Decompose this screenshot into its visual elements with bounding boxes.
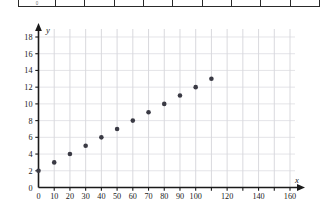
table-cell: [144, 0, 173, 7]
table-cell: [291, 0, 320, 7]
x-axis-tick-label: 30: [82, 192, 90, 201]
y-axis-tick-label: 10: [24, 100, 32, 109]
table-cell: [261, 0, 290, 7]
data-point: [68, 152, 73, 157]
x-axis-tick-label: 120: [221, 192, 233, 201]
vertical-gridlines: [54, 29, 290, 188]
table-cell: [115, 0, 144, 7]
table-cell-ghost-text: 0: [36, 0, 39, 6]
x-axis-tick-label: 70: [144, 192, 152, 201]
table-cell: [173, 0, 202, 7]
axes: [35, 23, 305, 191]
y-axis-tick-label: 12: [24, 83, 32, 92]
data-point: [83, 143, 88, 148]
chart-canvas: 0102030405060708090100120140160 02468101…: [0, 7, 320, 212]
y-axis-tick-label: 14: [24, 66, 32, 75]
y-axis-tick-label: 16: [24, 50, 32, 59]
table-cell: 0: [18, 0, 56, 7]
x-axis-tick-label: 140: [252, 192, 264, 201]
scatter-chart: 0102030405060708090100120140160 02468101…: [0, 7, 320, 212]
axis-titles: xy: [45, 25, 299, 185]
data-point: [162, 102, 167, 107]
data-points: [36, 77, 214, 174]
data-point: [99, 135, 104, 140]
x-axis-tick-label: 60: [129, 192, 137, 201]
x-axis-arrowhead: [297, 184, 305, 191]
y-axis-title: y: [45, 25, 50, 35]
y-axis-tick-labels: 024681012141618: [24, 33, 32, 193]
y-axis-tick-label: 4: [28, 150, 32, 159]
x-axis-tick-label: 20: [66, 192, 74, 201]
data-point: [193, 85, 198, 90]
data-point: [36, 168, 41, 173]
x-axis-tick-label: 0: [36, 192, 40, 201]
x-axis-tick-label: 90: [176, 192, 184, 201]
x-axis-tick-label: 40: [97, 192, 105, 201]
table-cell: [56, 0, 85, 7]
y-axis-tick-label: 2: [28, 167, 32, 176]
data-point: [115, 127, 120, 132]
x-axis-tick-label: 80: [160, 192, 168, 201]
table-cell: [203, 0, 232, 7]
y-axis-arrowhead: [35, 23, 42, 31]
data-point: [209, 77, 214, 82]
x-axis-tick-labels: 0102030405060708090100120140160: [36, 192, 296, 201]
table-cell: [232, 0, 261, 7]
y-axis-tick-label: 0: [28, 184, 32, 193]
data-point: [131, 118, 136, 123]
data-point: [146, 110, 151, 115]
scatter-plot-page: 0 0102030405060708090100120140160 024681…: [0, 0, 320, 212]
x-axis-tick-label: 50: [113, 192, 121, 201]
y-axis-tick-label: 8: [28, 117, 32, 126]
x-axis-tick-label: 100: [190, 192, 202, 201]
y-axis-tick-label: 6: [28, 133, 32, 142]
y-axis-tick-label: 18: [24, 33, 32, 42]
table-cell: [85, 0, 114, 7]
x-axis-title: x: [294, 175, 299, 185]
data-point: [52, 160, 57, 165]
horizontal-gridlines: [39, 37, 296, 171]
data-point: [178, 93, 183, 98]
x-axis-tick-label: 10: [50, 192, 58, 201]
table-bottom-row-fragment: 0: [18, 0, 320, 7]
x-axis-tick-label: 160: [284, 192, 296, 201]
